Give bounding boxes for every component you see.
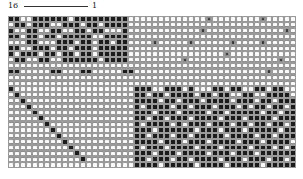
filled-cell bbox=[290, 162, 296, 168]
label-end-1: 1 bbox=[92, 2, 97, 10]
binary-matrix-grid bbox=[8, 16, 296, 168]
range-rule-line bbox=[24, 6, 88, 7]
label-start-16: 16 bbox=[8, 2, 18, 10]
